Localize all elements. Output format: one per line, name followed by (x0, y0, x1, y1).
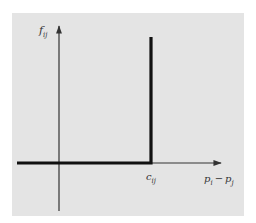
y-axis-label: fij (39, 25, 48, 39)
x-label-operator: − (215, 173, 223, 184)
x-label-left-subscript: i (210, 179, 212, 187)
x-axis-label: pi−pj (204, 174, 234, 187)
y-label-subscript: ij (43, 31, 47, 39)
threshold-label-subscript: ij (152, 177, 156, 185)
step-curve (17, 37, 151, 163)
threshold-label: cij (146, 172, 156, 185)
x-label-right-subscript: j (231, 179, 233, 187)
